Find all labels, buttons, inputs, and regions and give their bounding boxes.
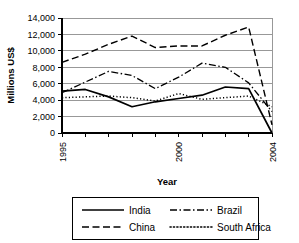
- x-axis-title: Year: [157, 176, 177, 187]
- legend-box: [72, 197, 258, 239]
- series-line-china: [62, 27, 272, 125]
- y-tick-label: 12,000: [27, 30, 55, 40]
- y-tick-label: 8,000: [32, 63, 55, 73]
- y-axis-ticks: 02,0004,0006,0008,00010,00012,00014,000: [27, 13, 62, 138]
- legend-label-india: India: [129, 205, 151, 216]
- chart-figure: 02,0004,0006,0008,00010,00012,00014,0001…: [0, 0, 299, 243]
- x-axis-ticks: 199520002004: [58, 133, 278, 162]
- gridlines: [62, 18, 272, 117]
- x-tick-label: 2000: [174, 142, 184, 162]
- legend-label-brazil: Brazil: [217, 205, 242, 216]
- y-axis-title: Millions US$: [5, 47, 16, 104]
- series-line-india: [62, 87, 272, 133]
- x-tick-label: 1995: [58, 142, 68, 162]
- y-tick-label: 14,000: [27, 13, 55, 23]
- y-tick-label: 2,000: [32, 112, 55, 122]
- y-tick-label: 10,000: [27, 46, 55, 56]
- legend-label-china: China: [129, 222, 156, 233]
- y-tick-label: 6,000: [32, 79, 55, 89]
- y-tick-label: 0: [50, 128, 55, 138]
- x-tick-label: 2004: [268, 142, 278, 162]
- series-group: [62, 27, 272, 133]
- y-tick-label: 4,000: [32, 95, 55, 105]
- line-chart: 02,0004,0006,0008,00010,00012,00014,0001…: [0, 0, 299, 243]
- legend: IndiaBrazilChinaSouth Africa: [72, 197, 271, 239]
- legend-label-south-africa: South Africa: [217, 222, 271, 233]
